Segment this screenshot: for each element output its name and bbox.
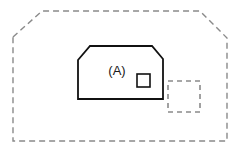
diagram-canvas: (A) bbox=[0, 0, 244, 153]
building-label-a: (A) bbox=[108, 63, 125, 78]
diagram-svg: (A) bbox=[0, 0, 244, 153]
